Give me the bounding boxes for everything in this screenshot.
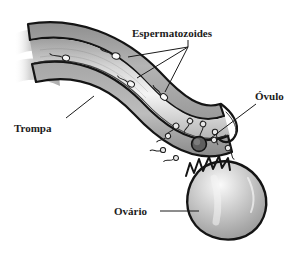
label-ovulo: Óvulo [255,90,284,102]
sperm-cell [150,146,166,153]
anatomy-diagram: Espermatozoides Óvulo Trompa Ovário [0,0,304,258]
ovary-highlight [214,178,218,222]
label-ovario: Ovário [114,205,147,217]
tube-structure [14,22,237,156]
label-trompa: Trompa [14,122,52,134]
ovum [192,137,207,152]
sperm-cell [163,155,179,162]
label-espermatozoides: Espermatozoides [132,27,213,39]
ovary-structure [186,156,266,240]
leader-tube [66,96,94,118]
